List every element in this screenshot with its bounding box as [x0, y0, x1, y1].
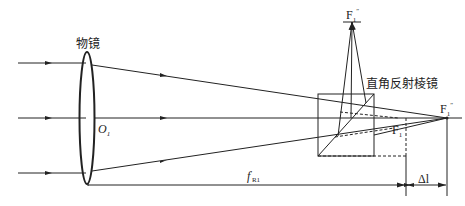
ray-arrows	[160, 73, 167, 163]
right-focus-label: F1″	[440, 101, 453, 118]
incoming-arrows	[45, 61, 52, 175]
inner-focus-label: F1′	[392, 122, 404, 139]
arrow-icon	[45, 116, 52, 120]
top-focus-label: F1″	[346, 7, 359, 24]
objective-label: 物镜	[76, 36, 100, 51]
arrow-icon	[407, 183, 414, 187]
ray-top-out	[92, 65, 447, 118]
lens-center-label: O1	[98, 122, 110, 138]
ray-to-inner-focus	[374, 118, 447, 135]
arrow-icon	[45, 171, 52, 175]
optical-diagram: 物镜 O1 F1″ 直角反射棱镜 F1″ F1′	[0, 0, 465, 206]
delta-label: Δl	[418, 172, 430, 186]
prism-label: 直角反射棱镜	[366, 76, 438, 91]
arrow-icon	[160, 116, 167, 120]
focal-length-label: f′R1	[247, 169, 261, 184]
arrow-icon	[45, 61, 52, 65]
